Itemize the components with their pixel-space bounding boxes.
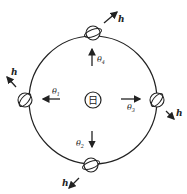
h-label-bottom: h [62, 178, 69, 188]
sun-label: 日 [88, 95, 98, 106]
h-arrow-bottom [69, 178, 79, 188]
h-arrow-top [104, 12, 117, 23]
planet-top: h θ4 [83, 12, 124, 66]
h-arrow-right [166, 111, 174, 119]
h-label-left: h [11, 67, 18, 77]
sun: 日 [85, 92, 101, 108]
theta3-label: θ3 [127, 103, 135, 113]
orbit-diagram: 日 h θ4 h θ1 h θ3 h θ2 [0, 0, 187, 194]
theta4-label: θ4 [97, 55, 105, 65]
planet-left: h θ1 [7, 67, 60, 108]
h-label-right: h [176, 108, 183, 118]
planet-bottom: h θ2 [62, 131, 101, 188]
theta2-label: θ2 [76, 139, 84, 149]
h-arrow-left [7, 77, 16, 87]
h-label-top: h [118, 14, 125, 24]
theta1-label: θ1 [52, 87, 60, 97]
planet-right: h θ3 [121, 92, 183, 119]
